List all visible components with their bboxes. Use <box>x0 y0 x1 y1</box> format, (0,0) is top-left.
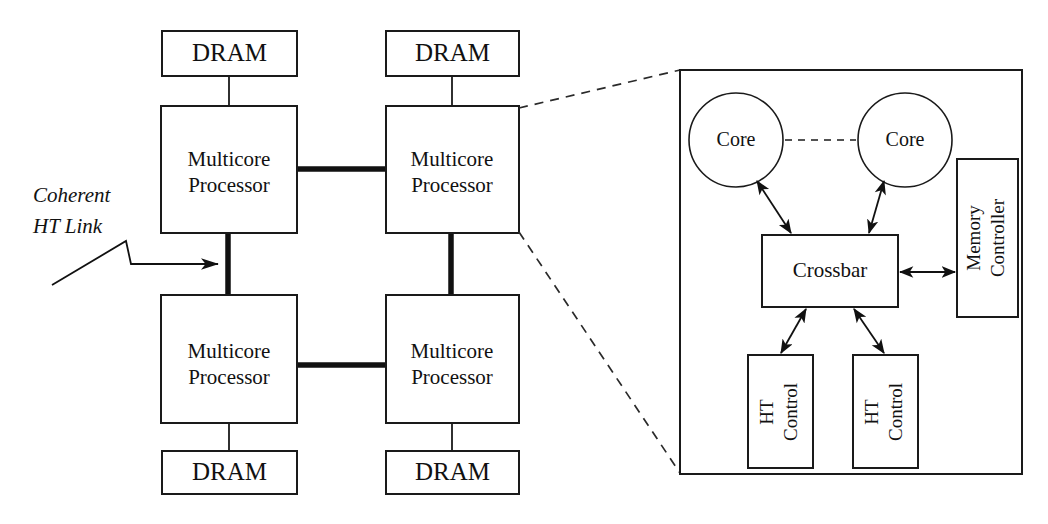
core-label-right: Core <box>886 128 925 150</box>
memory-controller-label-line2: Controller <box>987 198 1008 277</box>
dram-label-bottom-right: DRAM <box>415 458 490 485</box>
callout-dashed-line-bottom <box>519 232 680 473</box>
ht-link-annotation-line1: Coherent <box>33 183 112 207</box>
processor-topology-diagram: DRAM DRAM DRAM DRAM Multicore Processor … <box>0 0 1048 524</box>
processor-label-top-left-line2: Processor <box>188 173 270 197</box>
diagram-canvas: DRAM DRAM DRAM DRAM Multicore Processor … <box>0 0 1048 524</box>
ht-control-right-label-line2: Control <box>885 383 906 441</box>
processor-label-bottom-left-line2: Processor <box>188 365 270 389</box>
callout-dashed-line-top <box>519 70 680 108</box>
processor-label-top-left-line1: Multicore <box>188 147 271 171</box>
dram-label-top-left: DRAM <box>192 39 267 66</box>
dram-label-top-right: DRAM <box>415 39 490 66</box>
processor-label-top-right-line2: Processor <box>411 173 493 197</box>
ht-control-right-label-line1: HT <box>861 399 882 425</box>
processor-label-bottom-right-line1: Multicore <box>411 339 494 363</box>
ht-link-annotation-line2: HT Link <box>32 214 103 238</box>
crossbar-label: Crossbar <box>793 258 868 282</box>
processor-label-top-right-line1: Multicore <box>411 147 494 171</box>
processor-label-bottom-left-line1: Multicore <box>188 339 271 363</box>
processor-label-bottom-right-line2: Processor <box>411 365 493 389</box>
ht-control-left-label-line2: Control <box>780 383 801 441</box>
ht-control-left-label-line1: HT <box>756 399 777 425</box>
ht-link-annotation-arrow <box>52 241 218 285</box>
memory-controller-label-line1: Memory <box>963 205 984 271</box>
dram-label-bottom-left: DRAM <box>192 458 267 485</box>
core-label-left: Core <box>717 128 756 150</box>
